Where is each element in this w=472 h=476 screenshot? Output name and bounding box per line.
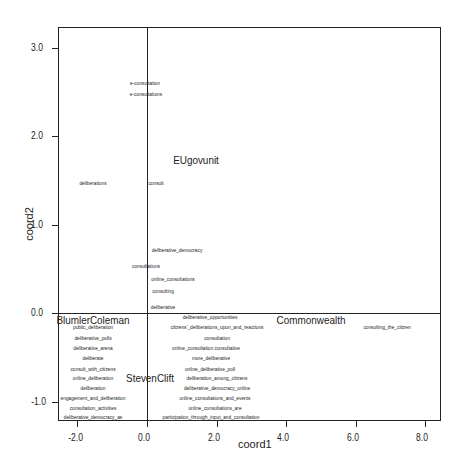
x-tick-label: -2.0: [69, 432, 84, 443]
term-label: consult: [148, 180, 163, 186]
term-label: citizens'_deliberations_upon_and_reactio…: [170, 324, 263, 330]
term-label: deliberation_among_citizens: [186, 375, 247, 381]
x-tick-mark: [147, 421, 148, 427]
term-label: deliberative_democracy: [151, 247, 202, 253]
x-tick-label: 2.0: [208, 432, 220, 443]
term-label: online_deliberative_poll: [185, 366, 235, 372]
plot-frame: [58, 27, 441, 421]
x-tick-label: 0.0: [138, 432, 150, 443]
term-label: online_deliberation: [73, 375, 113, 381]
group-label: EUgovunit: [173, 154, 219, 165]
term-label: deliberative_democracy_as: [64, 414, 122, 420]
term-label: consultations: [132, 263, 160, 269]
x-tick-mark: [217, 421, 218, 427]
y-tick-label: 3.0: [31, 42, 43, 53]
term-label: online_consultations: [151, 276, 195, 282]
term-label: deliberative_democracy_online: [184, 385, 250, 391]
x-tick-mark: [77, 421, 78, 427]
x-zero-reference-line: [147, 27, 148, 421]
term-label: deliberative_opportunities: [182, 314, 237, 320]
term-label: e-consultations: [130, 91, 162, 97]
term-label: more_deliberative: [192, 355, 230, 361]
term-label: deliberation: [81, 385, 106, 391]
y-tick-label: 2.0: [31, 130, 43, 141]
term-label: deliberative_arena: [73, 345, 113, 351]
x-axis-label: coord1: [238, 438, 272, 450]
term-label: consult_with_citizens: [70, 366, 115, 372]
group-label: StevenClift: [127, 373, 175, 384]
x-tick-label: 6.0: [347, 432, 359, 443]
term-label: engagement_and_deliberation: [61, 395, 126, 401]
y-tick-mark: [52, 48, 58, 49]
x-tick-label: 8.0: [416, 432, 428, 443]
y-tick-mark: [52, 136, 58, 137]
term-label: consultation: [204, 335, 230, 341]
x-tick-mark: [356, 421, 357, 427]
term-label: deliberative: [150, 304, 175, 310]
y-tick-label: 0.0: [31, 307, 43, 318]
term-label: deliberative_polls: [74, 335, 111, 341]
x-tick-label: 4.0: [277, 432, 289, 443]
y-tick-mark: [52, 402, 58, 403]
term-label: public_deliberation: [73, 324, 113, 330]
term-label: online_consultation consultative: [172, 345, 240, 351]
term-label: participation_through_input_and_consulta…: [163, 414, 260, 420]
y-tick-label: -1.0: [31, 396, 46, 407]
y-axis-label: coord2: [23, 207, 35, 241]
term-label: consulting: [152, 288, 174, 294]
term-label: deliberate: [83, 355, 104, 361]
x-tick-mark: [286, 421, 287, 427]
term-label: deliberations: [79, 180, 106, 186]
term-label: online_consultations_are: [188, 405, 241, 411]
scatter-chart: -2.00.02.04.06.08.0 3.02.01.00.0-1.0 e-c…: [0, 0, 472, 476]
term-label: consultation_activities: [70, 405, 117, 411]
term-label: consulting_the_citizen: [363, 324, 410, 330]
term-label: online_consultations_and_events: [179, 395, 250, 401]
group-label: Commonwealth: [276, 315, 345, 326]
y-tick-mark: [52, 225, 58, 226]
x-tick-mark: [425, 421, 426, 427]
term-label: e-consultation: [130, 80, 160, 86]
